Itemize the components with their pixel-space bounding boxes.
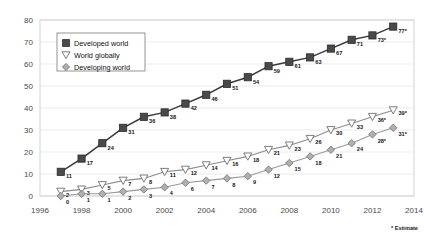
data-point-marker bbox=[57, 168, 64, 175]
data-point-marker bbox=[265, 146, 273, 153]
data-point-label: 2 bbox=[128, 195, 131, 201]
data-point-marker bbox=[389, 107, 397, 114]
estimate-footnote: * Estimate bbox=[391, 225, 418, 231]
data-point-label: 9 bbox=[253, 179, 256, 185]
data-point-label: 11 bbox=[66, 173, 72, 179]
data-point-marker bbox=[348, 36, 355, 43]
data-point-marker bbox=[390, 124, 397, 131]
data-point-label: 7 bbox=[211, 184, 214, 190]
data-point-label: 0 bbox=[66, 199, 69, 205]
data-point-label: 30 bbox=[336, 130, 342, 136]
data-point-marker bbox=[161, 184, 168, 191]
data-point-label: 71 bbox=[357, 41, 363, 47]
data-point-marker bbox=[265, 166, 272, 173]
legend-marker-developed-world bbox=[63, 40, 70, 47]
legend-entry-label: Developed world bbox=[74, 39, 128, 48]
data-point-label: 67 bbox=[336, 50, 342, 56]
data-point-label: 77* bbox=[398, 28, 407, 34]
data-point-marker bbox=[140, 186, 147, 193]
x-axis-tick-label: 2012 bbox=[364, 206, 382, 215]
data-point-label: 63 bbox=[315, 59, 321, 65]
data-point-marker bbox=[120, 124, 127, 131]
data-point-marker bbox=[140, 113, 147, 120]
data-point-marker bbox=[327, 45, 334, 52]
data-point-label: 23 bbox=[295, 146, 301, 152]
data-point-marker bbox=[306, 135, 314, 142]
data-point-label: 7 bbox=[128, 181, 131, 187]
data-point-marker bbox=[327, 146, 334, 153]
data-point-marker bbox=[203, 91, 210, 98]
x-axis-tick-label: 2008 bbox=[280, 206, 298, 215]
data-point-marker bbox=[182, 179, 189, 186]
legend-entry-label: World globally bbox=[74, 51, 120, 60]
data-point-label: 24 bbox=[357, 146, 364, 152]
data-point-marker bbox=[119, 188, 126, 195]
chart-container: 0102030405060708019961998200020022004200… bbox=[0, 0, 424, 234]
data-point-label: 6 bbox=[191, 186, 194, 192]
x-axis-tick-label: 2010 bbox=[322, 206, 340, 215]
legend-entry-label: Developing world bbox=[74, 63, 130, 72]
y-axis-tick-label: 80 bbox=[24, 16, 33, 25]
data-point-marker bbox=[286, 58, 293, 65]
data-point-label: 51 bbox=[232, 85, 238, 91]
data-point-label: 11 bbox=[170, 172, 176, 178]
data-point-label: 15 bbox=[295, 166, 301, 172]
data-point-label: 54 bbox=[253, 79, 260, 85]
data-point-label: 3 bbox=[149, 193, 152, 199]
x-axis-tick-label: 2006 bbox=[239, 206, 257, 215]
data-point-marker bbox=[57, 192, 64, 199]
data-point-label: 12 bbox=[191, 170, 197, 176]
data-point-marker bbox=[265, 63, 272, 70]
data-point-label: 24 bbox=[108, 145, 115, 151]
x-axis-tick-label: 2000 bbox=[114, 206, 132, 215]
data-point-label: 5 bbox=[108, 185, 111, 191]
data-point-label: 28* bbox=[378, 138, 387, 144]
data-point-label: 42 bbox=[191, 105, 197, 111]
data-point-marker bbox=[390, 23, 397, 30]
y-axis-tick-label: 0 bbox=[29, 192, 34, 201]
data-point-marker bbox=[244, 74, 251, 81]
y-axis-tick-label: 20 bbox=[24, 148, 33, 157]
data-point-marker bbox=[223, 175, 230, 182]
data-point-label: 61 bbox=[295, 63, 301, 69]
data-point-label: 46 bbox=[211, 96, 217, 102]
x-axis-tick-label: 2014 bbox=[405, 206, 423, 215]
data-point-marker bbox=[369, 131, 376, 138]
data-point-marker bbox=[307, 54, 314, 61]
data-point-marker bbox=[286, 159, 293, 166]
data-point-marker bbox=[369, 32, 376, 39]
data-point-marker bbox=[223, 80, 230, 87]
data-point-marker bbox=[99, 140, 106, 147]
data-point-marker bbox=[182, 100, 189, 107]
y-axis-tick-label: 40 bbox=[24, 104, 33, 113]
data-point-label: 4 bbox=[170, 190, 174, 196]
data-point-label: 36 bbox=[149, 118, 155, 124]
data-point-marker bbox=[306, 153, 313, 160]
data-point-label: 38 bbox=[170, 114, 176, 120]
data-point-label: 26 bbox=[315, 139, 321, 145]
y-axis-tick-label: 60 bbox=[24, 60, 33, 69]
data-point-label: 39* bbox=[398, 110, 407, 116]
data-point-label: 16 bbox=[232, 161, 238, 167]
data-point-label: 1 bbox=[108, 197, 111, 203]
line-chart: 0102030405060708019961998200020022004200… bbox=[0, 0, 424, 234]
data-point-marker bbox=[244, 173, 251, 180]
data-point-marker bbox=[161, 109, 168, 116]
data-point-label: 33 bbox=[357, 124, 363, 130]
data-point-label: 21 bbox=[336, 153, 342, 159]
data-point-marker bbox=[368, 113, 376, 120]
x-axis-tick-label: 1996 bbox=[31, 206, 49, 215]
data-point-label: 12 bbox=[274, 173, 280, 179]
data-point-marker bbox=[348, 140, 355, 147]
data-point-marker bbox=[78, 155, 85, 162]
data-point-label: 17 bbox=[87, 160, 93, 166]
y-axis-tick-label: 30 bbox=[24, 126, 33, 135]
data-point-label: 31* bbox=[398, 131, 407, 137]
data-point-label: 18 bbox=[315, 160, 321, 166]
x-axis-tick-label: 1998 bbox=[73, 206, 91, 215]
y-axis-tick-label: 70 bbox=[24, 38, 33, 47]
data-point-label: 1 bbox=[87, 197, 90, 203]
data-point-label: 14 bbox=[211, 165, 218, 171]
data-point-label: 18 bbox=[253, 157, 259, 163]
y-axis-tick-label: 50 bbox=[24, 82, 33, 91]
